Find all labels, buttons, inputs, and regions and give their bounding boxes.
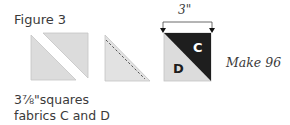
figure-caption: 3⅞"squares fabrics C and D: [14, 92, 110, 124]
stitched-triangle: [105, 35, 150, 81]
arrow-left-icon: [160, 28, 166, 33]
dimension-label: 3": [178, 3, 191, 17]
fabric-d-label: D: [173, 61, 184, 76]
caption-line-1: 3⅞"squares: [14, 92, 110, 108]
caption-line-2: fabrics C and D: [14, 108, 110, 124]
fabric-c-label: C: [193, 40, 203, 55]
make-count-label: Make 96: [226, 55, 281, 70]
arrow-right-icon: [209, 28, 215, 33]
